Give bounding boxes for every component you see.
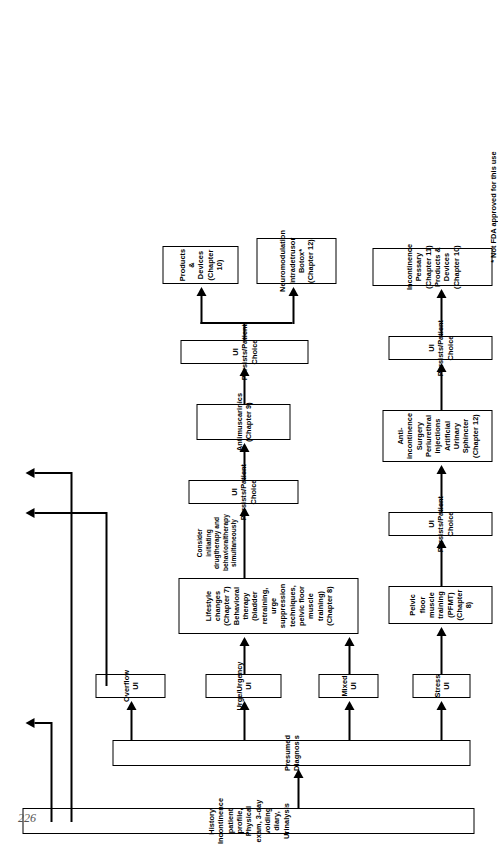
edge-assessment-to-presumed bbox=[297, 778, 299, 808]
text-line: Products & Devices (Chapter 10) bbox=[432, 244, 460, 290]
node-lifestyle-behavioral: Lifestyle changes (Chapter 7)Behavioral … bbox=[178, 578, 358, 634]
node-anti-incontinence-surgery-lines: Anti-incontinence SurgeryPeriurethral in… bbox=[395, 413, 479, 459]
page-number: 226 bbox=[18, 811, 36, 826]
node-neuromodulation: NeuromodulationIntradetrusor Botox*(Chap… bbox=[256, 238, 336, 284]
text-line: (PFMT) (Chapter 8) bbox=[445, 590, 473, 621]
text-line: Intradetrusor Botox* bbox=[287, 230, 306, 292]
edge-mixed-to-lifestyle bbox=[348, 646, 350, 674]
edge-assessment-up-h bbox=[50, 724, 52, 822]
text-line: Behavioral therapy (bladder retraining, bbox=[231, 582, 268, 630]
edge-antimuscarinics-to-persists2 bbox=[243, 376, 245, 404]
arrowhead-transient-ui bbox=[25, 719, 34, 729]
edge-overflow-referral-h bbox=[105, 514, 107, 686]
edge-persists1-to-antimuscarinics bbox=[243, 452, 245, 480]
edge-label-simultaneous-therapy: Consider initiating drugtherapy and beha… bbox=[180, 514, 238, 572]
node-urge-ui: Urge/Urgency UI bbox=[205, 674, 281, 698]
arrowhead-pessary-products bbox=[436, 289, 446, 298]
node-stress-persists-1: UI Persists/Patient Choice bbox=[388, 512, 492, 536]
edge-surgery-to-persists2 bbox=[440, 372, 442, 410]
text-line: Antimuscarinics bbox=[234, 393, 243, 451]
node-urge-persists-1: UI Persists/Patient Choice bbox=[188, 480, 298, 504]
node-pfmt-lines: Pelvic floor muscle training(PFMT) (Chap… bbox=[407, 590, 472, 621]
node-pessary-products-lines: Incontinence Pessary (Chapter 11)Product… bbox=[404, 244, 460, 290]
edge-pfmt-to-persists1 bbox=[440, 548, 442, 586]
text-line: Anti-incontinence Surgery bbox=[395, 413, 423, 459]
edge-overflow-referral-v bbox=[34, 512, 107, 514]
node-products-devices: Products & Devices(Chapter 10) bbox=[162, 246, 238, 284]
edge-to-neuromodulation bbox=[292, 296, 294, 324]
arrowhead-mixed-ui bbox=[344, 701, 354, 710]
edge-to-products-devices bbox=[200, 296, 202, 324]
node-mixed-ui-label: Mixed UI bbox=[339, 675, 358, 696]
edge-urge-to-lifestyle bbox=[243, 646, 245, 674]
edge-presumed-to-overflow bbox=[130, 710, 132, 740]
node-stress-persists-2: UI Persists/Patient Choice bbox=[388, 336, 492, 360]
text-line: Lifestyle changes (Chapter 7) bbox=[203, 582, 231, 630]
edge-presumed-to-mixed bbox=[348, 710, 350, 740]
text-line: Products & Devices bbox=[177, 249, 205, 281]
edge-stress-to-pfmt bbox=[440, 636, 442, 674]
node-antimuscarinics: Antimuscarinics(Chapter 9) bbox=[196, 404, 290, 440]
node-presumed-diagnosis-label: Presumed Diagnosis bbox=[282, 735, 301, 771]
edge-assessment-up-v bbox=[34, 722, 52, 724]
edge-persists2-to-pessary bbox=[440, 298, 442, 336]
node-pessary-products: Incontinence Pessary (Chapter 11)Product… bbox=[372, 248, 492, 286]
edge-presumed-to-stress bbox=[440, 710, 442, 740]
text-line: training) (Chapter 8) bbox=[315, 582, 334, 630]
edge-persists1-to-surgery bbox=[440, 474, 442, 512]
node-assessment-label: History, Incontinence patient profile, P… bbox=[206, 798, 290, 844]
arrowhead-consider-referral-b bbox=[25, 509, 34, 519]
edge-lifestyle-to-persists1 bbox=[243, 516, 245, 578]
edge-presumed-to-urge bbox=[243, 710, 245, 740]
edge-split-vertical bbox=[200, 322, 292, 324]
text-line: Neuromodulation bbox=[277, 230, 286, 292]
text-line: Periurethral injections bbox=[423, 413, 442, 459]
node-urge-persists-2: UI Persists/Patient Choice bbox=[180, 340, 308, 364]
arrowhead-lifestyle-from-urge bbox=[239, 637, 249, 646]
arrowhead-anti-incontinence-surgery bbox=[436, 465, 446, 474]
node-stress-ui-label: Stress UI bbox=[432, 675, 451, 698]
text-line: Pelvic floor muscle training bbox=[407, 590, 444, 621]
arrowhead-consider-referral-a bbox=[25, 469, 34, 479]
edge-persists2-stub bbox=[243, 322, 245, 340]
text-line: Incontinence Pessary (Chapter 11) bbox=[404, 244, 432, 290]
node-neuromodulation-lines: NeuromodulationIntradetrusor Botox*(Chap… bbox=[277, 230, 314, 292]
node-pfmt: Pelvic floor muscle training(PFMT) (Chap… bbox=[388, 586, 492, 624]
node-presumed-diagnosis: Presumed Diagnosis bbox=[112, 740, 470, 766]
node-assessment: History, Incontinence patient profile, P… bbox=[22, 808, 474, 834]
arrowhead-lifestyle-from-mixed bbox=[344, 637, 354, 646]
edge-assessment-referral-h bbox=[70, 474, 72, 822]
arrowhead-pfmt bbox=[436, 627, 446, 636]
arrowhead-overflow-ui bbox=[126, 701, 136, 710]
footnote-fda: * Not FDA approved for this use bbox=[489, 151, 498, 262]
node-stress-ui: Stress UI bbox=[412, 674, 470, 698]
arrowhead-stress-ui bbox=[436, 701, 446, 710]
text-line: (Chapter 12) bbox=[470, 413, 479, 459]
text-line: urge suppression techniques, pelvic floo… bbox=[268, 582, 315, 630]
arrowhead-products-devices bbox=[196, 287, 206, 296]
edge-assessment-referral-v bbox=[34, 472, 72, 474]
node-mixed-ui: Mixed UI bbox=[318, 674, 378, 698]
text-line: (Chapter 12) bbox=[305, 230, 314, 292]
node-products-devices-lines: Products & Devices(Chapter 10) bbox=[177, 249, 224, 281]
text-line: (Chapter 10) bbox=[205, 249, 224, 281]
node-overflow-ui-label: Overflow UI bbox=[121, 670, 140, 702]
node-anti-incontinence-surgery: Anti-incontinence SurgeryPeriurethral in… bbox=[382, 410, 492, 462]
node-lifestyle-behavioral-lines: Lifestyle changes (Chapter 7)Behavioral … bbox=[203, 582, 334, 630]
text-line: Artificial Urinary Sphincter bbox=[442, 413, 470, 459]
